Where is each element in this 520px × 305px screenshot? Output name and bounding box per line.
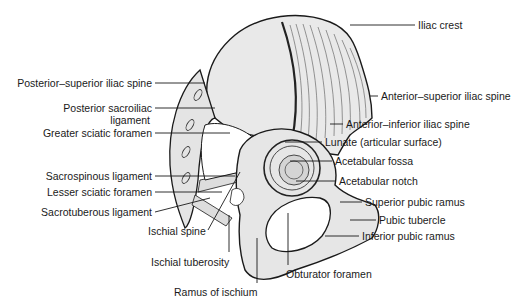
label-sacrospinous-ligament: Sacrospinous ligament	[0, 170, 152, 182]
label-lesser-sciatic-foramen: Lesser sciatic foramen	[0, 186, 152, 198]
label-anterior-inferior-iliac-spine: Anterior–inferior iliac spine	[346, 118, 470, 130]
label-pubic-tubercle: Pubic tubercle	[379, 214, 446, 226]
label-posterior-sacroiliac-ligament-line1: Posterior sacroiliac	[0, 102, 152, 114]
label-ischial-spine: Ischial spine	[148, 225, 206, 237]
label-posterior-superior-iliac-spine: Posterior–superior iliac spine	[0, 77, 152, 89]
label-anterior-superior-iliac-spine: Anterior–superior iliac spine	[381, 90, 511, 102]
label-posterior-sacroiliac-ligament-line2: ligament	[0, 114, 150, 126]
label-acetabular-notch: Acetabular notch	[339, 175, 418, 187]
label-superior-pubic-ramus: Superior pubic ramus	[365, 196, 465, 208]
label-greater-sciatic-foramen: Greater sciatic foramen	[0, 127, 152, 139]
hip-bone-illustration	[0, 0, 520, 305]
label-ramus-of-ischium: Ramus of ischium	[174, 286, 257, 298]
label-sacrotuberous-ligament: Sacrotuberous ligament	[0, 206, 152, 218]
label-lunate: Lunate (articular surface)	[325, 136, 442, 148]
label-iliac-crest: Iliac crest	[418, 19, 462, 31]
label-inferior-pubic-ramus: Inferior pubic ramus	[362, 230, 455, 242]
label-obturator-foramen: Obturator foramen	[286, 268, 372, 280]
hip-bone-diagram: Iliac crest Posterior–superior iliac spi…	[0, 0, 520, 305]
label-acetabular-fossa: Acetabular fossa	[335, 155, 413, 167]
label-ischial-tuberosity: Ischial tuberosity	[151, 256, 229, 268]
